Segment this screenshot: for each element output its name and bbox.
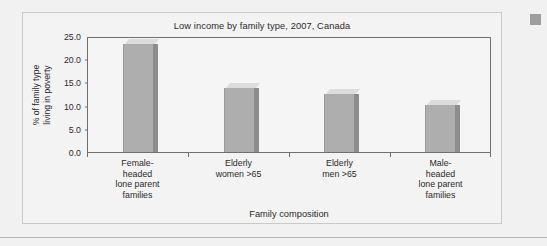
bar-front-face	[324, 94, 355, 152]
x-axis-category-line: men >65	[289, 169, 390, 180]
bar-top-face	[326, 89, 360, 94]
x-axis-category-line: families	[87, 190, 188, 201]
bar-slot	[88, 38, 189, 152]
bar-series	[88, 38, 490, 152]
bar-front-face	[224, 88, 255, 152]
bar-slot	[390, 38, 491, 152]
scroll-marker[interactable]	[530, 14, 541, 25]
x-axis-category-label: Female-headedlone parentfamilies	[87, 153, 188, 209]
x-axis-category-line: headed	[87, 169, 188, 180]
y-axis-title-line-2: living in poverty	[42, 65, 52, 124]
x-axis-title: Family composition	[87, 209, 491, 219]
x-axis-category-line: lone parent	[87, 179, 188, 190]
y-axis-tick-label: 15.0	[64, 78, 81, 88]
page-background: Low income by family type, 2007, Canada …	[0, 0, 547, 246]
x-axis-categories: Female-headedlone parentfamiliesElderlyw…	[87, 153, 491, 209]
x-axis-category-line: Female-	[87, 158, 188, 169]
bar-front-face	[123, 44, 154, 152]
bar-top-face	[226, 83, 260, 88]
x-axis-category-label: Male-headedlone parentfamilies	[390, 153, 491, 209]
y-axis-ticks: 0.05.010.015.020.025.0	[55, 37, 85, 153]
x-axis-category-label: Elderlywomen >65	[188, 153, 289, 209]
x-axis-category-line: families	[390, 190, 491, 201]
bar-slot	[289, 38, 390, 152]
figure-panel: Low income by family type, 2007, Canada …	[22, 12, 502, 224]
bar-side-face	[153, 44, 158, 152]
y-axis-tick-label: 20.0	[64, 55, 81, 65]
y-axis-tick-label: 0.0	[69, 148, 81, 158]
bar[interactable]	[324, 94, 354, 152]
bar-side-face	[354, 94, 359, 152]
bar-front-face	[425, 105, 456, 152]
x-axis-tick-mark	[289, 153, 290, 157]
x-axis-category-label: Elderlymen >65	[289, 153, 390, 209]
x-axis-tick-mark	[188, 153, 189, 157]
y-axis-tick-label: 25.0	[64, 32, 81, 42]
bar[interactable]	[123, 44, 153, 152]
x-axis-category-line: Male-	[390, 158, 491, 169]
y-axis-title: % of family type living in poverty	[29, 37, 55, 153]
y-axis-tick-label: 10.0	[64, 102, 81, 112]
x-axis-tick-mark	[87, 153, 88, 157]
bar-side-face	[455, 105, 460, 152]
bar[interactable]	[224, 88, 254, 152]
bar-top-face	[125, 39, 159, 44]
chart-title: Low income by family type, 2007, Canada	[23, 21, 501, 31]
bar-top-face	[427, 100, 461, 105]
x-axis-category-line: Elderly	[289, 158, 390, 169]
x-axis-category-line: headed	[390, 169, 491, 180]
bar-slot	[189, 38, 290, 152]
x-axis-category-line: women >65	[188, 169, 289, 180]
plot-wrapper: 0.05.010.015.020.025.0	[55, 37, 491, 153]
x-axis-tick-mark	[490, 153, 491, 157]
bar-side-face	[254, 88, 259, 152]
y-axis-tick-label: 5.0	[69, 125, 81, 135]
y-axis-title-line-1: % of family type	[31, 65, 41, 126]
bottom-divider	[0, 237, 547, 238]
plot-area	[87, 37, 491, 153]
x-axis-tick-mark	[390, 153, 391, 157]
x-axis-category-line: lone parent	[390, 179, 491, 190]
bar[interactable]	[425, 105, 455, 152]
x-axis-category-line: Elderly	[188, 158, 289, 169]
